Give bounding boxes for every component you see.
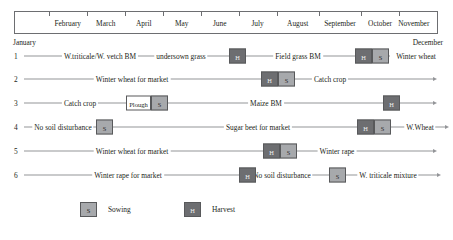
month-tick-8 xyxy=(361,12,362,16)
row-arrow-head-icon xyxy=(433,77,437,81)
segment-label: Catch crop xyxy=(312,75,348,84)
row-arrow-head-icon xyxy=(433,149,437,153)
segment-label: Catch crop xyxy=(62,99,98,108)
row-number: 4 xyxy=(14,123,18,132)
harvest-marker: H xyxy=(239,168,256,183)
month-tick-2 xyxy=(125,12,126,16)
segment-label: No soil disturbance xyxy=(251,171,312,180)
month-tick-9 xyxy=(399,12,400,16)
row-timeline-line xyxy=(24,79,433,80)
crop-row-5: 5Winter wheat for marketWinter rapeHS xyxy=(0,140,453,162)
month-tick-0 xyxy=(49,12,50,16)
segment-label: Winter wheat xyxy=(394,52,438,61)
segment-label: Winter wheat for market xyxy=(94,147,171,156)
segment-label: W.triticale/W. vetch BM xyxy=(62,52,138,61)
harvest-marker: H xyxy=(383,96,400,111)
harvest-marker: H xyxy=(261,72,278,87)
harvest-marker: H xyxy=(357,120,374,135)
legend: S Sowing H Harvest xyxy=(0,202,453,224)
segment-label: Winter rape for market xyxy=(92,171,164,180)
segment-label: W.Wheat xyxy=(404,123,435,132)
harvest-marker: H xyxy=(263,144,280,159)
month-tick-1 xyxy=(87,12,88,16)
row-arrow-head-icon xyxy=(433,101,437,105)
crop-row-6: 6Winter rape for marketNo soil disturban… xyxy=(0,164,453,186)
sowing-marker: S xyxy=(329,168,346,183)
crop-row-4: 4No soil disturbanceSugar beet for marke… xyxy=(0,116,453,138)
sowing-marker: S xyxy=(280,144,297,159)
harvest-label: Harvest xyxy=(212,202,235,217)
row-timeline-line xyxy=(24,151,433,152)
month-tick-7 xyxy=(319,12,320,16)
segment-label: No soil disturbance xyxy=(32,123,93,132)
row-number: 5 xyxy=(14,147,18,156)
month-tick-6 xyxy=(277,12,278,16)
harvest-marker: H xyxy=(229,49,246,64)
row-number: 2 xyxy=(14,75,18,84)
plough-marker: Plough xyxy=(126,96,151,111)
month-tick-5 xyxy=(239,12,240,16)
sowing-marker: S xyxy=(96,120,113,135)
crop-row-2: 2Winter wheat for marketCatch cropHS xyxy=(0,68,453,90)
harvest-symbol-box: H xyxy=(184,202,201,217)
segment-label: Maize BM xyxy=(248,99,284,108)
month-tick-3 xyxy=(163,12,164,16)
segment-label: W. triticale mixture xyxy=(357,171,418,180)
segment-label: Winter wheat for market xyxy=(94,75,171,84)
sowing-marker: S xyxy=(374,120,391,135)
sowing-symbol-box: S xyxy=(80,202,97,217)
crop-row-3: 3Catch cropMaize BMPloughSH xyxy=(0,92,453,114)
crop-row-1: 1W.triticale/W. vetch BMundersown grassF… xyxy=(0,45,453,67)
sowing-marker: S xyxy=(372,49,389,64)
month-header-bar: FebruaryMarchAprilMayJuneJulyAugustSepte… xyxy=(14,11,438,34)
row-arrow-head-icon xyxy=(437,173,441,177)
segment-label: undersown grass xyxy=(154,52,207,61)
row-number: 1 xyxy=(14,52,18,61)
month-label-november: November xyxy=(376,12,452,35)
row-number: 6 xyxy=(14,171,18,180)
sowing-label: Sowing xyxy=(108,202,131,217)
sowing-marker: S xyxy=(151,96,168,111)
harvest-marker: H xyxy=(355,49,372,64)
month-tick-4 xyxy=(201,12,202,16)
row-number: 3 xyxy=(14,99,18,108)
segment-label: Winter rape xyxy=(318,147,357,156)
sowing-marker: S xyxy=(278,72,295,87)
segment-label: Sugar beet for market xyxy=(224,123,292,132)
row-arrow-head-icon xyxy=(445,125,449,129)
segment-label: Field grass BM xyxy=(273,52,323,61)
